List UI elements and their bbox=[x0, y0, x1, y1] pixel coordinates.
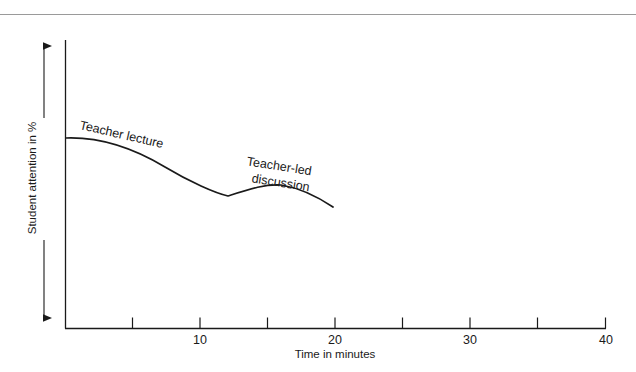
x-tick-label-10: 10 bbox=[180, 333, 220, 347]
x-tick-label-30: 30 bbox=[450, 333, 490, 347]
figure-container: 10 20 30 40 Time in minutes Student atte… bbox=[0, 0, 636, 372]
y-axis-title: Student attention in % bbox=[26, 103, 38, 253]
x-tick-label-20: 20 bbox=[315, 333, 355, 347]
x-axis-title: Time in minutes bbox=[270, 348, 400, 360]
x-axis-ticks bbox=[133, 318, 606, 329]
chart-canvas bbox=[0, 0, 636, 372]
x-tick-label-40: 40 bbox=[586, 333, 626, 347]
